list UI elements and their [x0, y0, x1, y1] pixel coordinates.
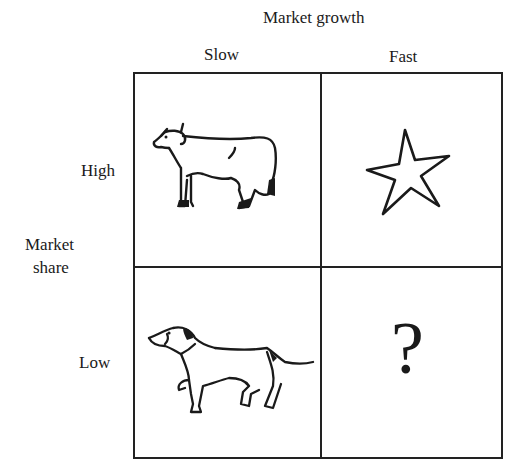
quadrant-high-fast	[363, 126, 455, 218]
star-icon	[363, 126, 455, 218]
question-mark-icon: ?	[391, 307, 424, 389]
quadrant-low-fast: ?	[391, 306, 424, 391]
y-axis-title-line1: Market	[25, 235, 74, 255]
matrix-grid: ?	[133, 72, 503, 459]
column-label-slow: Slow	[204, 45, 239, 65]
x-axis-title: Market growth	[263, 8, 365, 28]
quadrant-low-slow	[145, 324, 315, 424]
dog-icon	[145, 324, 315, 424]
row-label-high: High	[81, 161, 115, 181]
y-axis-title-line2: share	[33, 258, 69, 278]
quadrant-high-slow	[151, 120, 296, 220]
cow-icon	[151, 120, 296, 220]
row-label-low: Low	[79, 353, 110, 373]
horizontal-divider	[135, 266, 501, 268]
column-label-fast: Fast	[389, 47, 417, 67]
